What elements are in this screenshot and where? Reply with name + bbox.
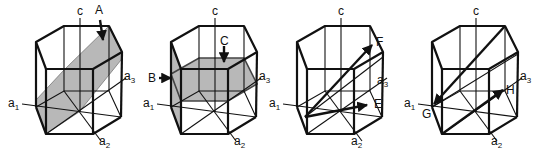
label-c: c [473,4,479,18]
svg-text:a1: a1 [404,96,416,112]
label-b-plane: B [148,71,156,85]
panel-4: c G H a1 a3 a2 [404,4,532,150]
svg-text:a2: a2 [351,134,363,150]
hex-prism [418,18,522,141]
label-a2-sub: 2 [498,141,503,150]
label-e-direction: E [374,97,382,111]
svg-text:a1: a1 [269,96,281,112]
label-c: c [77,4,83,18]
label-a-plane: A [95,3,103,17]
hex-prism [283,18,387,141]
label-a2-sub: 2 [358,141,363,150]
label-c-plane: C [220,34,229,48]
panel-1: c A a1 a3 a2 [8,3,136,150]
label-a1-sub: 1 [411,103,416,112]
svg-text:a2: a2 [234,134,246,150]
svg-text:a2: a2 [491,134,503,150]
label-g-direction: G [422,107,431,121]
label-a1-sub: 1 [15,103,20,112]
label-a3-sub: 3 [527,76,532,85]
hexagonal-cells-figure: c A a1 a3 a2 c C B a1 a3 a2 c F E a1 a3 … [0,0,544,154]
svg-text:a3: a3 [520,69,532,85]
label-a3-sub: 3 [384,80,389,89]
label-a3-sub: 3 [131,76,136,85]
svg-text:a3: a3 [124,69,136,85]
panel-2: c C B a1 a3 a2 [143,4,271,150]
panel-3: c F E a1 a3 a2 [269,4,389,150]
svg-text:a1: a1 [143,96,155,112]
svg-text:a3: a3 [377,73,389,89]
label-h-direction: H [506,83,515,97]
label-c: c [338,4,344,18]
label-f-direction: F [376,35,383,49]
label-a1-sub: 1 [150,103,155,112]
label-a2-sub: 2 [106,141,111,150]
svg-text:a2: a2 [99,134,111,150]
svg-text:a1: a1 [8,96,20,112]
label-a3-sub: 3 [266,76,271,85]
label-a1-sub: 1 [276,103,281,112]
svg-text:a3: a3 [259,69,271,85]
label-c: c [212,4,218,18]
label-a2-sub: 2 [241,141,246,150]
